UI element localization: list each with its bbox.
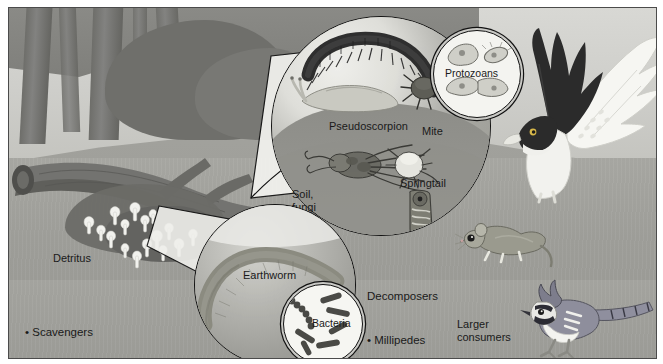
decomposers-heading: Decomposers xyxy=(367,289,439,304)
left-list: • Scavengers • Earthworms • Bacteria and… xyxy=(25,296,215,359)
left-list-item: • Scavengers xyxy=(25,325,215,340)
insect-larva xyxy=(400,185,444,236)
decomposers-item: • Millipedes xyxy=(367,333,439,348)
slug xyxy=(286,67,406,119)
label-detritus: Detritus xyxy=(53,252,91,265)
decomposers-list: Decomposers • Millipedes • Protozoans • … xyxy=(367,260,439,359)
blue-jay xyxy=(515,276,657,359)
label-mite: Mite xyxy=(422,125,443,138)
mouse xyxy=(455,214,555,270)
bacteria-magnifier-circle: Bacteria xyxy=(283,284,363,359)
label-bacteria: Bacteria xyxy=(312,317,351,330)
label-springtail: Springtail xyxy=(400,177,446,190)
label-pseudoscorpion: Pseudoscorpion xyxy=(329,120,408,133)
diagram-figure: Pseudoscorpion Mite Springtail Soil, fun… xyxy=(8,7,657,359)
hawk xyxy=(489,12,657,202)
label-earthworm: Earthworm xyxy=(243,269,296,282)
label-larger-consumers: Larger consumers xyxy=(457,318,511,344)
